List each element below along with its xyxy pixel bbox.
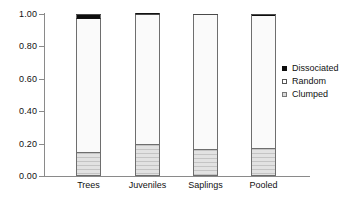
y-tick-label-5: 0.20 (0, 140, 37, 149)
bar-top-cap (193, 14, 218, 15)
bar-pooled (251, 14, 276, 176)
legend-item-dissociated: Dissociated (282, 63, 360, 74)
y-tick-label-text: 0.40 (3, 107, 37, 116)
bar-segment-clumped (76, 153, 101, 176)
x-tick-label-pooled: Pooled (214, 180, 314, 190)
bar-trees (76, 14, 101, 176)
bar-segment-clumped (135, 145, 160, 176)
y-tick-mark (39, 176, 44, 177)
legend-label: Dissociated (292, 64, 339, 73)
legend-item-clumped: Clumped (282, 89, 360, 100)
bar-saplings (193, 14, 218, 176)
bar-segment-random (76, 19, 101, 153)
bar-top-cap (76, 14, 101, 15)
chart-legend: Dissociated Random Clumped (282, 63, 360, 102)
bar-top-cap (251, 14, 276, 15)
y-tick-label-3: 0.60 (0, 75, 37, 84)
empty-white-square-icon (282, 79, 287, 84)
bar-segment-clumped (251, 149, 276, 176)
filled-black-square-icon (282, 66, 287, 71)
y-tick-label-4: 0.40 (0, 107, 37, 116)
bar-segment-random (135, 15, 160, 145)
y-tick-label-text: 0.80 (3, 42, 37, 51)
plot-area (44, 14, 262, 176)
legend-label: Random (292, 77, 326, 86)
y-tick-label-text: 0.60 (3, 75, 37, 84)
bar-segment-random (251, 16, 276, 149)
y-tick-label-2: 0.80 (0, 42, 37, 51)
gray-hatched-square-icon (282, 92, 287, 97)
y-tick-label-1: 1.00 (0, 10, 37, 19)
y-tick-label-6: 0.00 (0, 172, 37, 181)
y-tick-label-text: 1.00 (3, 10, 37, 19)
bar-segment-clumped (193, 150, 218, 176)
bar-segment-random (193, 14, 218, 150)
bar-top-cap (135, 14, 160, 15)
legend-item-random: Random (282, 76, 360, 87)
bar-juveniles (135, 14, 160, 176)
y-tick-label-text: 0.00 (3, 172, 37, 181)
y-tick-label-text: 0.20 (3, 140, 37, 149)
stacked-bar-chart: 1.00 0.80 0.60 0.40 0.20 0.00 Trees Juve… (0, 0, 361, 200)
legend-label: Clumped (292, 90, 328, 99)
x-axis-line (44, 176, 310, 177)
